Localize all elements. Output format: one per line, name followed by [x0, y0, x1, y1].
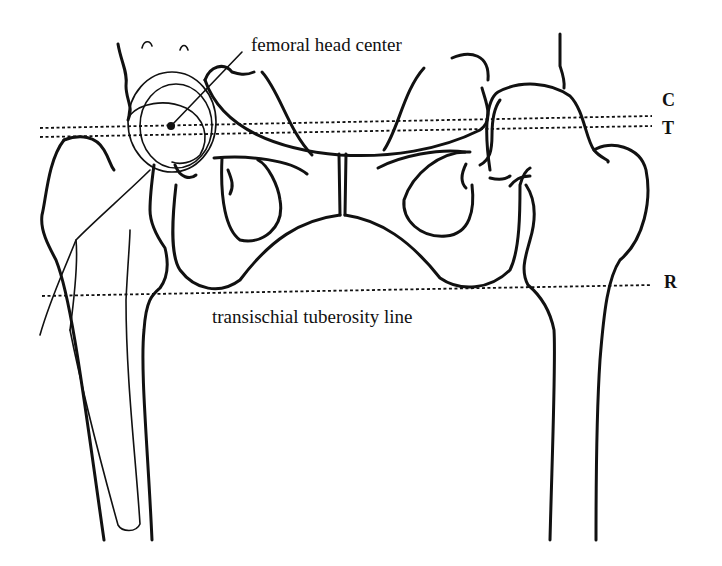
line-r-label: R	[664, 272, 677, 293]
left-femur	[40, 42, 242, 540]
pelvis	[173, 54, 530, 288]
femoral-head-center-label: femoral head center	[251, 34, 402, 56]
line-t-label: T	[662, 118, 674, 139]
line-r	[42, 285, 652, 296]
anatomy-drawing	[0, 0, 722, 566]
line-c	[40, 116, 652, 128]
hip-diagram: femoral head center transischial tuberos…	[0, 0, 722, 566]
line-c-label: C	[662, 90, 675, 111]
acetabular-cup-outer	[128, 72, 216, 172]
line-t	[40, 126, 652, 137]
transischial-line-label: transischial tuberosity line	[212, 306, 413, 328]
leader-line	[171, 52, 242, 126]
